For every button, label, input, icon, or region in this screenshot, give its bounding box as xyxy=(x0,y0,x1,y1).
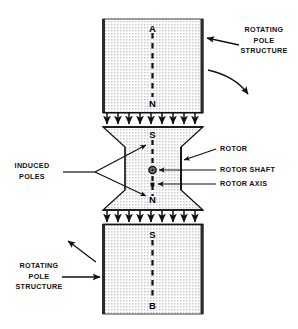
pole-marker-rotor-top: S xyxy=(146,130,160,140)
pole-marker-bottom-block-top: S xyxy=(146,230,160,240)
leader-rotor xyxy=(184,149,216,160)
pole-marker-top-block-bottom: N xyxy=(146,99,160,109)
label-rotating-pole-structure-bottom: ROTATING POLE STRUCTURE xyxy=(8,261,70,293)
pole-marker-bottom-block-bottom: B xyxy=(146,301,160,311)
label-rotor: ROTOR xyxy=(220,144,247,155)
label-rotor-shaft: ROTOR SHAFT xyxy=(220,165,275,176)
pole-marker-rotor-bottom: N xyxy=(146,195,160,205)
label-induced-poles: INDUCED POLES xyxy=(2,161,62,182)
rotation-arrow-bottom xyxy=(68,241,96,262)
diagram-page: A N S N S B ROTATING POLE STRUCTURE ROTA… xyxy=(0,0,298,329)
flux-arrows-lower xyxy=(107,211,195,222)
rotation-arrow-top xyxy=(208,70,248,94)
rotor-shaft-marker xyxy=(149,166,156,173)
pole-marker-top-block-top: A xyxy=(146,24,160,34)
flux-arrows-upper xyxy=(107,113,195,124)
label-rotor-axis: ROTOR AXIS xyxy=(220,179,267,190)
label-rotating-pole-structure-top: ROTATING POLE STRUCTURE xyxy=(232,25,296,57)
rotor-axis-marker xyxy=(151,183,155,187)
